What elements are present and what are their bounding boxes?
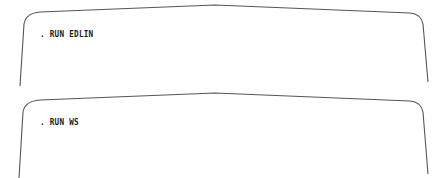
monitor-outline-icon <box>0 88 440 178</box>
command-line: . RUN WS <box>40 117 79 127</box>
command-line: . RUN EDLIN <box>40 29 93 39</box>
screen-frame-edlin: . RUN EDLIN <box>0 0 440 90</box>
monitor-outline-icon <box>0 0 440 90</box>
screen-frame-ws: . RUN WS <box>0 88 440 178</box>
